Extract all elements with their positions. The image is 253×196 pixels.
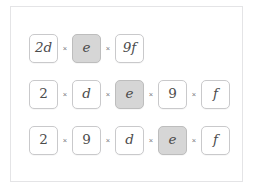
term-tile[interactable]: f bbox=[201, 80, 230, 109]
multiplication-sign: × bbox=[144, 136, 158, 145]
term-tile-selected[interactable]: e bbox=[115, 80, 144, 109]
term-tile[interactable]: 2 bbox=[29, 126, 58, 155]
expression-rows-container: 2d×e×9f2×d×e×9×f2×9×d×e×f bbox=[11, 7, 242, 181]
term-tile-selected[interactable]: e bbox=[72, 34, 101, 63]
multiplication-sign: × bbox=[58, 136, 72, 145]
term-tile[interactable]: 2 bbox=[29, 80, 58, 109]
term-tile[interactable]: 2d bbox=[29, 34, 58, 63]
expression-row-1: 2d×e×9f bbox=[29, 25, 144, 71]
multiplication-sign: × bbox=[187, 136, 201, 145]
page-root: 2d×e×9f2×d×e×9×f2×9×d×e×f bbox=[0, 0, 253, 196]
expression-row-3: 2×9×d×e×f bbox=[29, 117, 230, 163]
expression-row-2: 2×d×e×9×f bbox=[29, 71, 230, 117]
multiplication-sign: × bbox=[144, 90, 158, 99]
term-tile-selected[interactable]: e bbox=[158, 126, 187, 155]
term-tile[interactable]: f bbox=[201, 126, 230, 155]
term-tile[interactable]: 9f bbox=[115, 34, 144, 63]
multiplication-sign: × bbox=[101, 136, 115, 145]
term-tile[interactable]: d bbox=[72, 80, 101, 109]
term-tile[interactable]: d bbox=[115, 126, 144, 155]
multiplication-sign: × bbox=[58, 90, 72, 99]
multiplication-sign: × bbox=[101, 90, 115, 99]
expression-card: 2d×e×9f2×d×e×9×f2×9×d×e×f bbox=[10, 6, 243, 182]
multiplication-sign: × bbox=[187, 90, 201, 99]
multiplication-sign: × bbox=[101, 44, 115, 53]
multiplication-sign: × bbox=[58, 44, 72, 53]
term-tile[interactable]: 9 bbox=[158, 80, 187, 109]
term-tile[interactable]: 9 bbox=[72, 126, 101, 155]
